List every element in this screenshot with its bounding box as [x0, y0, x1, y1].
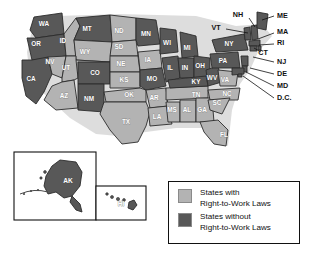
callout-label-RI[interactable]: RI: [277, 38, 284, 47]
state-label-IL: IL: [167, 64, 173, 71]
legend-swatch-with-law: [178, 189, 192, 203]
state-label-KS: KS: [120, 76, 130, 83]
state-label-UT: UT: [62, 64, 71, 71]
legend-text-with-law: States with Right-to-Work Laws: [200, 188, 271, 209]
legend-line-1: States with: [200, 188, 271, 199]
callout-label-NH[interactable]: NH: [233, 10, 243, 19]
callout-label-MD[interactable]: MD: [277, 81, 288, 90]
state-label-NV: NV: [46, 58, 56, 65]
state-label-NE: NE: [117, 60, 127, 67]
state-label-ID: ID: [60, 37, 67, 44]
state-label-ND: ND: [114, 27, 124, 34]
inset-alaska: [14, 152, 96, 220]
inset-label-AK: AK: [63, 177, 73, 184]
legend-line-2: Right-to-Work Laws: [200, 199, 271, 210]
state-NJ[interactable]: [241, 56, 248, 66]
state-label-CA: CA: [26, 75, 36, 82]
legend-swatch-without-law: [178, 213, 192, 227]
state-label-FL: FL: [220, 131, 228, 138]
state-label-OK: OK: [124, 91, 134, 98]
state-label-VA: VA: [221, 76, 230, 83]
state-label-AL: AL: [183, 106, 192, 113]
state-label-WI: WI: [163, 39, 171, 46]
state-label-WA: WA: [39, 20, 50, 27]
leader-line-DC: [243, 76, 274, 98]
state-label-MI: MI: [183, 44, 190, 51]
callout-label-DC[interactable]: D.C.: [277, 93, 291, 102]
state-label-TX: TX: [122, 118, 131, 125]
state-VT[interactable]: [244, 27, 251, 40]
inset-label-HI: HI: [118, 200, 125, 207]
state-label-AZ: AZ: [60, 92, 69, 99]
state-label-GA: GA: [197, 106, 207, 113]
state-label-NC: NC: [222, 90, 232, 97]
state-label-NY: NY: [225, 40, 235, 47]
state-label-SC: SC: [213, 99, 222, 106]
state-label-WY: WY: [80, 48, 91, 55]
state-DC[interactable]: [238, 74, 242, 77]
callout-label-CT[interactable]: CT: [258, 48, 268, 57]
callout-label-VT[interactable]: VT: [211, 23, 221, 32]
leader-line-NJ: [253, 57, 274, 62]
legend-text-without-law: States without Right-to-Work Laws: [200, 212, 271, 233]
legend-row-without: States without Right-to-Work Laws: [178, 212, 299, 233]
state-label-LA: LA: [153, 113, 162, 120]
state-label-MN: MN: [141, 30, 151, 37]
callout-label-ME[interactable]: ME: [277, 11, 288, 20]
state-label-CO: CO: [90, 69, 100, 76]
leader-line-MD: [246, 72, 274, 86]
state-label-MO: MO: [147, 75, 157, 82]
state-CT[interactable]: [250, 46, 257, 51]
callout-label-DE[interactable]: DE: [277, 69, 287, 78]
state-label-IA: IA: [145, 56, 152, 63]
leader-line-DE: [250, 68, 274, 74]
legend-row-with: States with Right-to-Work Laws: [178, 188, 299, 209]
state-label-KY: KY: [192, 78, 202, 85]
state-label-OR: OR: [31, 40, 41, 47]
state-label-NM: NM: [84, 95, 94, 102]
state-ME[interactable]: [257, 12, 268, 30]
state-label-AR: AR: [149, 94, 159, 101]
state-label-MT: MT: [82, 25, 91, 32]
state-label-MS: MS: [167, 106, 177, 113]
callout-label-NJ[interactable]: NJ: [277, 57, 286, 66]
state-label-OH: OH: [195, 62, 205, 69]
state-label-WV: WV: [207, 74, 218, 81]
legend-line-2: Right-to-Work Laws: [200, 223, 271, 234]
state-MA[interactable]: [249, 40, 260, 46]
us-right-to-work-map: WAORCANVIDMTWYUTAZCONMNDSDNEKSOKTXMNIAMO…: [0, 0, 312, 258]
state-MT[interactable]: [74, 15, 112, 42]
state-label-PA: PA: [219, 57, 228, 64]
callout-label-MA[interactable]: MA: [277, 27, 288, 36]
state-label-TN: TN: [192, 91, 201, 98]
state-label-IN: IN: [182, 64, 189, 71]
legend-line-1: States without: [200, 212, 271, 223]
legend-box: States with Right-to-Work Laws States wi…: [168, 181, 300, 244]
state-label-SD: SD: [115, 43, 124, 50]
